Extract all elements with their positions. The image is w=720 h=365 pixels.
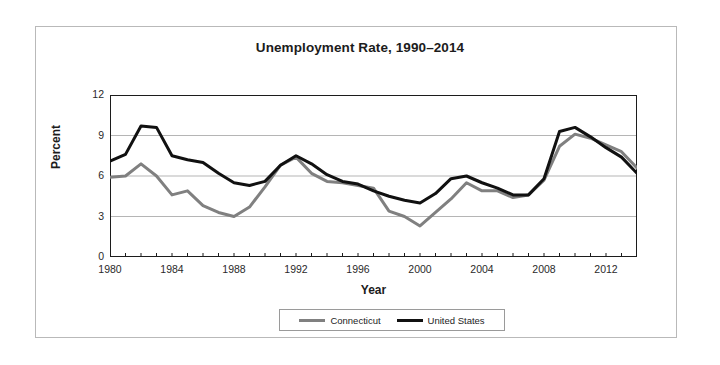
x-tick-2004: 2004 [459,263,505,275]
legend-item-connecticut: Connecticut [299,315,380,326]
chart-legend: Connecticut United States [279,309,505,331]
chart-title: Unemployment Rate, 1990–2014 [0,40,720,55]
y-tick-6: 6 [82,169,104,181]
plot-area [110,95,637,257]
chart-svg [110,95,637,257]
x-tick-2008: 2008 [521,263,567,275]
legend-swatch-connecticut [299,319,325,322]
y-axis-tick-labels: 12 9 6 3 0 [80,95,104,257]
x-axis-tick-labels: 1980 1984 1988 1992 1996 2000 2004 2008 … [110,263,637,279]
legend-label-connecticut: Connecticut [330,315,380,326]
series-line-connecticut [110,134,637,226]
legend-item-united-states: United States [397,315,485,326]
y-tick-12: 12 [82,88,104,100]
y-axis-label: Percent [49,87,63,207]
y-tick-3: 3 [82,210,104,222]
x-tick-1992: 1992 [273,263,319,275]
y-tick-0: 0 [82,250,104,262]
x-tick-1988: 1988 [211,263,257,275]
chart-page: Unemployment Rate, 1990–2014 Percent 12 … [0,0,720,365]
x-tick-1980: 1980 [87,263,133,275]
x-tick-1996: 1996 [335,263,381,275]
x-tick-2012: 2012 [583,263,629,275]
x-axis-label: Year [110,283,637,297]
legend-swatch-united-states [397,319,423,322]
x-tick-1984: 1984 [149,263,195,275]
legend-label-united-states: United States [428,315,485,326]
y-tick-9: 9 [82,129,104,141]
x-tick-2000: 2000 [397,263,443,275]
